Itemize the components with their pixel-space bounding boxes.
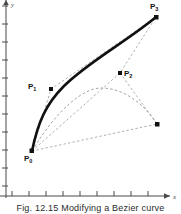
label-p2: P2 [124,70,132,78]
label-p0: P0 [24,155,32,163]
bezier-plot: y x [0,0,181,214]
control-leg-p2-to-moved [120,73,157,124]
modified-bezier-curve [32,88,157,151]
y-axis: y [2,0,15,198]
label-p3: P3 [150,3,158,11]
original-bezier-curve [32,17,156,151]
control-polygon-modified [32,17,156,151]
control-point-p2[interactable] [118,71,122,75]
control-polygon-original [32,17,156,151]
control-point-p0[interactable] [30,149,35,154]
control-polygon-dashed [32,17,157,151]
control-point-p3[interactable] [154,15,159,20]
control-point-p2-moved[interactable] [155,122,160,127]
figure-caption: Fig. 12.15 Modifying a Bezier curve [0,203,181,214]
x-axis-label: x [172,193,177,201]
y-axis-arrowhead [3,0,9,5]
x-axis: x [0,191,177,201]
control-point-p1[interactable] [49,87,53,91]
control-point-markers [30,15,160,153]
control-leg-to-moved-point [32,124,157,151]
label-p1: P1 [28,83,36,91]
bezier-curve-figure: y x [0,0,181,214]
x-axis-arrowhead [164,193,170,199]
y-axis-label: y [10,1,15,9]
